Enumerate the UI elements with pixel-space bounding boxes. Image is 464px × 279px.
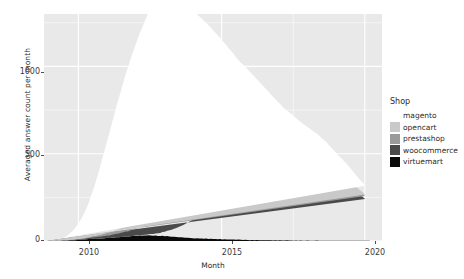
x-axis-tick-2010: [89, 241, 90, 244]
legend-title: Shop: [390, 97, 464, 106]
x-tick-label-2020: 2020: [355, 248, 395, 257]
y-tick-label-1000: 1000: [2, 68, 40, 76]
legend-swatch-opencart: [390, 122, 400, 132]
legend-label-virtuemart: virtuemart: [403, 157, 443, 166]
legend-swatch-magento: [390, 111, 400, 121]
legend-label-woocommerce: woocommerce: [403, 146, 458, 155]
chart-figure: Averaged answer count per month 1000 500…: [0, 0, 464, 279]
y-tick-label-500: 500: [2, 151, 40, 159]
area-magento: [47, 14, 365, 241]
legend-item-opencart[interactable]: opencart: [390, 122, 464, 134]
legend-swatch-woocommerce: [390, 145, 400, 155]
legend-swatch-virtuemart: [390, 157, 400, 167]
y-axis-tick-labels: 1000 500 0: [0, 0, 40, 279]
legend-item-magento[interactable]: magento: [390, 110, 464, 122]
x-tick-label-2015: 2015: [212, 248, 252, 257]
y-tick-label-0: 0: [2, 236, 40, 244]
plot-panel: [44, 14, 382, 241]
legend-item-woocommerce[interactable]: woocommerce: [390, 145, 464, 157]
area-series-group: [47, 14, 369, 241]
legend-label-magento: magento: [403, 111, 437, 120]
legend-label-opencart: opencart: [403, 123, 436, 132]
legend-item-prestashop[interactable]: prestashop: [390, 133, 464, 145]
stacked-area-plot: [44, 14, 382, 241]
legend-items: magentoopencartprestashopwoocommercevirt…: [390, 110, 464, 168]
x-axis-title: Month: [44, 261, 382, 270]
legend-swatch-prestashop: [390, 134, 400, 144]
legend-item-virtuemart[interactable]: virtuemart: [390, 156, 464, 168]
legend-label-prestashop: prestashop: [403, 134, 445, 143]
legend: Shop magentoopencartprestashopwoocommerc…: [390, 97, 464, 168]
x-axis-tick-2020: [375, 241, 376, 244]
x-axis-tick-2015: [232, 241, 233, 244]
x-tick-label-2010: 2010: [69, 248, 109, 257]
